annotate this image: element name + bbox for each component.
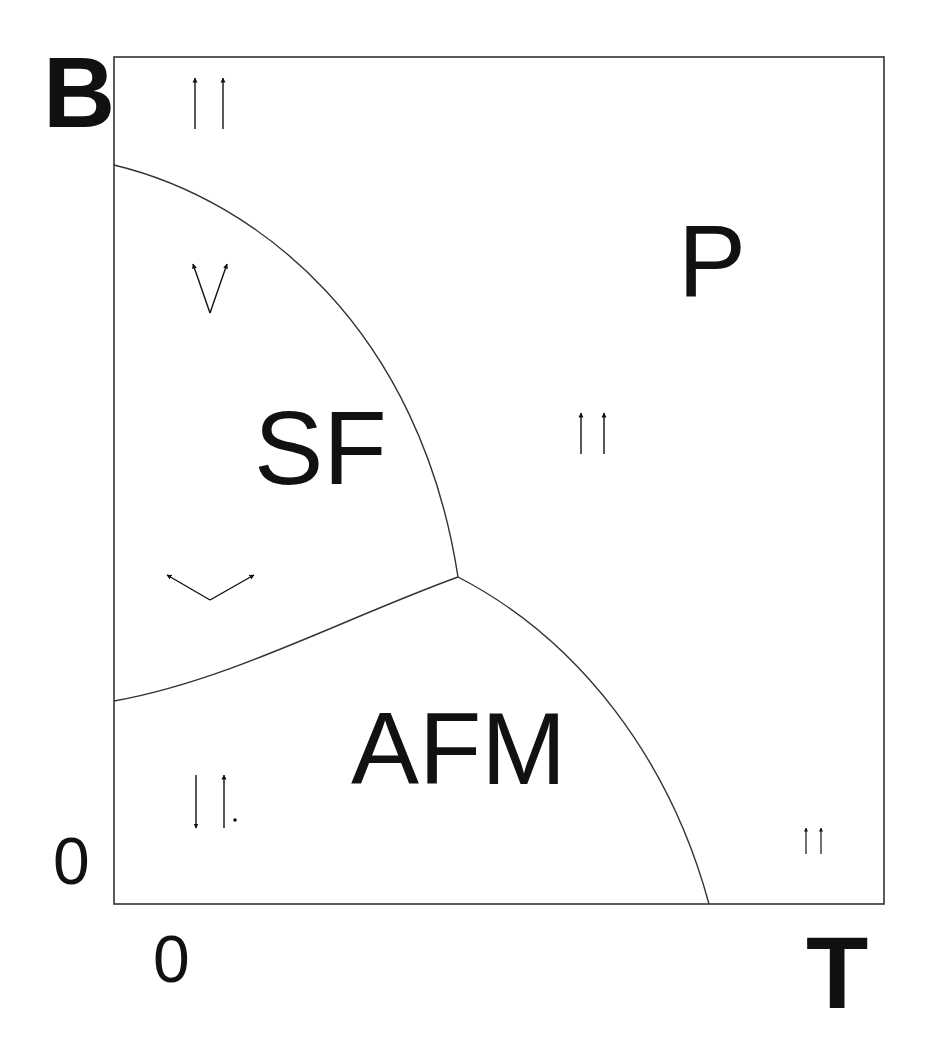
spin-canted-wide-icon bbox=[167, 575, 254, 600]
spin-up-up-small-icon bbox=[806, 828, 821, 854]
region-label-p: P bbox=[678, 210, 746, 312]
x-axis-label: T bbox=[806, 922, 868, 1024]
spin-canted-narrow-icon bbox=[193, 264, 227, 313]
sf-p-boundary bbox=[114, 165, 458, 577]
spin-up-up-icon bbox=[195, 78, 223, 129]
y-axis-label: B bbox=[43, 42, 115, 142]
phase-diagram: B 0 0 T P SF AFM bbox=[0, 0, 928, 1042]
y-origin-label: 0 bbox=[53, 828, 90, 894]
region-label-sf: SF bbox=[254, 396, 387, 500]
spin-down-up-icon bbox=[196, 775, 237, 828]
region-label-afm: AFM bbox=[351, 698, 566, 800]
afm-sf-boundary bbox=[114, 577, 458, 701]
x-origin-label: 0 bbox=[153, 926, 190, 992]
spin-up-up-icon bbox=[581, 413, 604, 454]
